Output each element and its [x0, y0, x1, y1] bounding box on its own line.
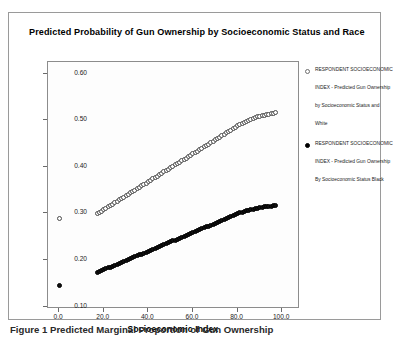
- data-point: [57, 216, 62, 221]
- legend-label: RESPONDENT SOCIOECONOMIC INDEX - Predict…: [315, 67, 393, 126]
- y-axis-tick-mark: [43, 212, 47, 213]
- chart-legend: RESPONDENT SOCIOECONOMIC INDEX - Predict…: [305, 57, 393, 187]
- y-axis-tick-mark: [43, 119, 47, 120]
- y-axis-tick-mark: [43, 73, 47, 74]
- open-circle-marker-icon: [305, 69, 310, 74]
- x-axis-tick-label: 60.0: [186, 313, 199, 320]
- x-axis-tick-label: 20.0: [96, 313, 109, 320]
- x-axis-tick-label: 0.0: [54, 313, 63, 320]
- plot-panel: [47, 61, 299, 308]
- x-axis-tick-mark: [281, 308, 282, 312]
- chart-frame: Predicted Probability of Gun Ownership b…: [8, 12, 381, 320]
- x-axis-tick-label: 80.0: [230, 313, 243, 320]
- plot-area: [48, 62, 298, 307]
- x-axis-tick-mark: [58, 308, 59, 312]
- y-axis-tick-mark: [43, 306, 47, 307]
- data-point: [57, 283, 62, 288]
- data-point: [273, 110, 278, 115]
- legend-entry: RESPONDENT SOCIOECONOMIC INDEX - Predict…: [305, 131, 393, 185]
- y-axis-tick-label: 0.30: [59, 208, 87, 215]
- filled-circle-marker-icon: [305, 143, 310, 148]
- y-axis-tick-label: 0.40: [59, 162, 87, 169]
- y-axis-tick-label: 0.10: [59, 302, 87, 309]
- y-axis-tick-mark: [43, 259, 47, 260]
- y-axis-tick-mark: [43, 166, 47, 167]
- x-axis-tick-label: 40.0: [141, 313, 154, 320]
- data-point: [273, 203, 278, 208]
- x-axis-tick-label: 100.0: [273, 313, 290, 320]
- chart-title: Predicted Probability of Gun Ownership b…: [29, 27, 369, 37]
- x-axis-tick-mark: [237, 308, 238, 312]
- y-axis-tick-label: 0.50: [59, 115, 87, 122]
- x-axis-tick-mark: [192, 308, 193, 312]
- legend-entry: RESPONDENT SOCIOECONOMIC INDEX - Predict…: [305, 57, 393, 129]
- legend-label: RESPONDENT SOCIOECONOMIC INDEX - Predict…: [315, 141, 393, 182]
- x-axis-tick-mark: [103, 308, 104, 312]
- figure-caption: Figure 1 Predicted Marginal Proportion o…: [10, 324, 385, 335]
- x-axis-tick-mark: [147, 308, 148, 312]
- y-axis-tick-label: 0.20: [59, 255, 87, 262]
- y-axis-tick-label: 0.60: [59, 69, 87, 76]
